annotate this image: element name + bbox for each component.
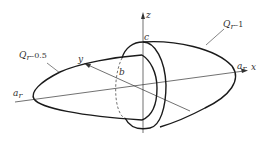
z-axis-arrow [141,12,145,19]
ring-inner [142,55,157,120]
label-ar-right: ar [237,61,247,73]
leader-qr-05 [47,63,60,73]
label-qr-05: Qr–0.5 [19,50,47,62]
y-axis [88,65,190,111]
label-x: x [251,62,256,72]
label-z: z [145,10,151,20]
label-c: c [144,32,149,42]
ellipsoid-diagram: z x y c b ar ar Qr–0.5 Qr–1 [0,0,266,148]
label-ar-left: ar [13,88,23,100]
ring-outer [125,42,166,129]
label-b: b [119,67,125,77]
label-y: y [77,54,84,64]
leader-qr-1 [206,29,224,45]
x-axis [15,71,244,102]
label-qr-1: Qr–1 [223,19,243,31]
